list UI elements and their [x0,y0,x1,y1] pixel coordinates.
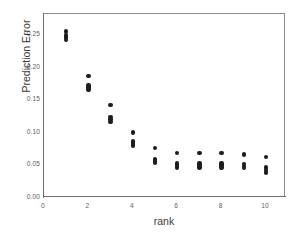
data-point [108,103,112,107]
scatter-plot-figure: 0.000.050.100.150.200.25 0246810 Predict… [0,0,305,237]
x-tick-label: 8 [219,203,223,210]
x-tick-label: 0 [41,203,45,210]
data-point [175,151,179,155]
x-tick-label: 4 [130,203,134,210]
data-point [219,165,223,169]
data-point [264,170,268,174]
data-point [242,152,246,156]
data-point [197,151,201,155]
x-axis-tick-labels: 0246810 [0,203,305,215]
data-point [175,165,179,169]
data-point [153,146,157,150]
plot-area-frame [43,13,285,197]
data-point [108,120,112,124]
data-point [131,130,135,134]
x-tick-label: 10 [261,203,269,210]
data-point [131,143,135,147]
data-point [197,165,201,169]
data-point [86,74,90,78]
y-tick-label: 0.00 [27,194,40,201]
data-point [86,87,90,91]
data-point [242,166,246,170]
data-point [264,155,268,159]
data-points-layer [44,14,284,196]
x-tick-label: 6 [174,203,178,210]
data-point [153,161,157,165]
data-point [64,38,68,42]
x-axis-title: rank [43,215,285,227]
y-tick-label: 0.05 [27,161,40,168]
data-point [219,151,223,155]
y-axis-title: Prediction Error [20,0,32,136]
x-tick-label: 2 [86,203,90,210]
